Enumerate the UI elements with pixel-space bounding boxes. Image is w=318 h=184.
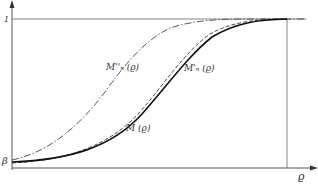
curve-m-prime bbox=[12, 19, 287, 163]
label-m-prime: M'ₙ (ϱ) bbox=[183, 63, 215, 73]
y-axis-arrow-icon bbox=[10, 0, 15, 8]
y-tick-bottom: β bbox=[1, 155, 8, 166]
x-axis-arrow-icon bbox=[310, 166, 318, 171]
curve-m bbox=[12, 19, 287, 162]
sigmoid-chart: 1 β ϱ M''ₙ (ϱ) M'ₙ (ϱ) M (ϱ) bbox=[0, 0, 318, 184]
x-axis-label: ϱ bbox=[298, 170, 305, 183]
label-m-double-prime: M''ₙ (ϱ) bbox=[105, 62, 139, 72]
y-tick-top: 1 bbox=[4, 15, 9, 24]
label-m: M (ϱ) bbox=[125, 123, 151, 133]
